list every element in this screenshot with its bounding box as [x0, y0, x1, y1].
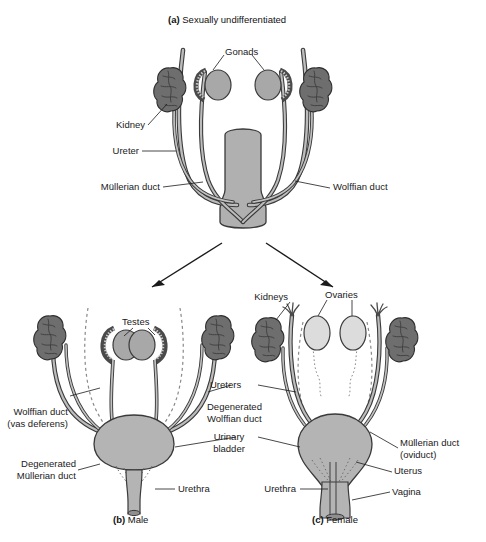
label-ureter: Ureter: [50, 145, 139, 157]
panel-a-anatomy: [142, 50, 333, 287]
kidney-left: [154, 68, 186, 112]
label-uterus: Uterus: [394, 465, 422, 477]
label-testes: Testes: [122, 316, 149, 328]
label-wolffian-duct-vas: Wolffian duct (vas deferens): [0, 406, 68, 429]
panel-c-caption: (c) Female: [312, 514, 358, 526]
kidney-left-male: [34, 316, 66, 360]
panel-b-letter: (b): [113, 514, 125, 525]
label-ureters: Ureters: [210, 379, 241, 391]
gonad-right: [255, 70, 290, 100]
figure-root: (a) Sexually undifferentiated: [0, 0, 486, 542]
kidney-right-male: [202, 316, 234, 360]
panel-c-title: Female: [326, 514, 358, 525]
label-mullerian-duct-oviduct: Müllerian duct (oviduct): [400, 437, 459, 460]
transition-arrows: [152, 243, 333, 287]
label-mullerian-duct: Müllerian duct: [20, 181, 160, 193]
kidney-right-female: [386, 318, 418, 362]
label-ovaries: Ovaries: [325, 289, 358, 301]
kidney-left-female: [252, 318, 284, 362]
label-kidney: Kidney: [50, 119, 145, 131]
fimbriae-left: [283, 303, 299, 316]
label-degenerated-wolffian: Degenerated Wolffian duct: [207, 401, 262, 424]
label-degenerated-mullerian: Degenerated Müllerian duct: [0, 458, 76, 481]
label-wolffian-duct: Wolffian duct: [333, 181, 388, 193]
gonad-left: [196, 70, 231, 100]
label-urinary-bladder: Urinary bladder: [200, 431, 258, 454]
panel-b-title: Male: [128, 514, 149, 525]
panel-b-caption: (b) Male: [113, 514, 148, 526]
label-gonads: Gonads: [225, 46, 258, 58]
panel-c-letter: (c): [312, 514, 324, 525]
ovary-left: [304, 316, 330, 350]
label-vagina: Vagina: [392, 486, 421, 498]
label-urethra-male: Urethra: [178, 483, 210, 495]
fimbriae-right: [371, 303, 387, 316]
label-urethra-female: Urethra: [232, 483, 296, 495]
label-kidneys-female: Kidneys: [208, 291, 288, 303]
ovary-right: [340, 316, 366, 350]
kidney-right: [300, 68, 332, 112]
